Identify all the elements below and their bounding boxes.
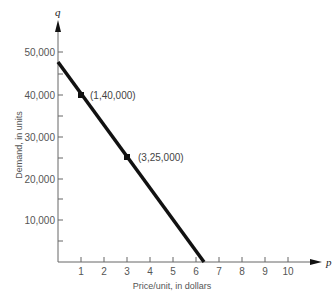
point-label: (1,40,000) [90, 90, 136, 101]
x-tick-label: 3 [124, 266, 130, 277]
y-ticks [58, 52, 63, 241]
x-tick-label: 1 [78, 266, 84, 277]
y-tick-label: 30,000 [24, 132, 55, 143]
x-axis-var: p [325, 256, 332, 268]
y-axis-arrow-icon [55, 20, 61, 32]
y-tick-label: 50,000 [24, 47, 55, 58]
y-tick-label: 10,000 [24, 215, 55, 226]
y-tick-label: 40,000 [24, 90, 55, 101]
x-tick-label: 9 [262, 266, 268, 277]
x-tick-label: 8 [239, 266, 245, 277]
data-point [78, 92, 84, 98]
x-axis-title: Price/unit, in dollars [133, 281, 212, 291]
y-axis-title: Demand, in units [14, 111, 24, 179]
x-tick-label: 7 [216, 266, 222, 277]
y-axis-var: q [55, 6, 61, 18]
x-ticks [81, 257, 288, 262]
x-axis-arrow-icon [310, 259, 322, 265]
demand-chart: q p 10,000 20,000 30,000 40,000 50,000 1… [0, 0, 334, 303]
x-tick-label: 2 [101, 266, 107, 277]
y-tick-label: 20,000 [24, 174, 55, 185]
x-tick-label: 6 [193, 266, 199, 277]
x-tick-label: 4 [147, 266, 153, 277]
point-label: (3,25,000) [138, 152, 184, 163]
x-tick-label: 5 [170, 266, 176, 277]
data-point [124, 154, 130, 160]
x-tick-label: 10 [282, 266, 294, 277]
